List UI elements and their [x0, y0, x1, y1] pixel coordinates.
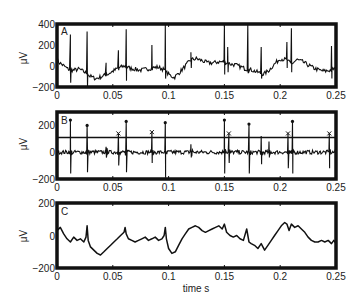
panel-a-yticks: 4002000−200: [32, 19, 55, 93]
panel-c-frame: [57, 203, 336, 268]
y-tick-label: −200: [32, 174, 55, 185]
x-tick-label: 0.05: [103, 182, 123, 193]
y-tick-label: 200: [38, 198, 55, 209]
x-tick-label: 0: [54, 271, 60, 282]
figure: A 4002000−200 00.050.10.150.20.25 μV B 2…: [0, 0, 363, 305]
panel-a-trace: [57, 24, 336, 87]
spike-dot-marker: [86, 124, 89, 127]
x-tick-label: 0.15: [215, 271, 235, 282]
spike-dot-marker: [223, 118, 226, 121]
x-tick-label: 0.25: [326, 182, 346, 193]
panel-c-yticks: 2000−200: [32, 198, 55, 274]
y-tick-label: −200: [32, 263, 55, 274]
x-tick-label: 0.1: [162, 271, 176, 282]
x-tick-label: 0.1: [162, 90, 176, 101]
x-tick-label: 0.05: [103, 271, 123, 282]
x-tick-label: 0.15: [215, 90, 235, 101]
panel-b-trace: [57, 120, 336, 178]
spike-dot-marker: [291, 120, 294, 123]
panel-a-ylabel: μV: [18, 51, 29, 64]
panel-c-ylabel: μV: [18, 229, 29, 242]
spike-dot-marker: [125, 120, 128, 123]
x-tick-label: 0: [54, 90, 60, 101]
y-tick-label: 400: [38, 19, 55, 30]
x-tick-label: 0: [54, 182, 60, 193]
panel-c: C 2000−200 00.050.10.150.20.25 μV time s: [18, 198, 346, 294]
x-tick-label: 0.2: [273, 182, 287, 193]
x-tick-label: 0.15: [215, 182, 235, 193]
panel-b: B 2000−200 00.050.10.150.20.25 μV: [18, 112, 346, 193]
y-tick-label: 0: [49, 147, 55, 158]
panel-c-trace: [57, 223, 336, 256]
spike-dot-marker: [164, 121, 167, 124]
x-tick-label: 0.25: [326, 271, 346, 282]
panel-b-xticks: 00.050.10.150.20.25: [54, 182, 346, 193]
x-tick-label: 0.1: [162, 182, 176, 193]
panel-c-label: C: [61, 206, 68, 217]
panel-b-frame: [57, 112, 336, 179]
panel-b-label: B: [61, 115, 68, 126]
y-tick-label: 200: [38, 120, 55, 131]
y-tick-label: 0: [49, 61, 55, 72]
x-tick-label: 0.2: [273, 271, 287, 282]
x-tick-label: 0.2: [273, 90, 287, 101]
panel-a: A 4002000−200 00.050.10.150.20.25 μV: [18, 19, 346, 101]
x-tick-label: 0.05: [103, 90, 123, 101]
y-tick-label: −200: [32, 82, 55, 93]
panel-b-yticks: 2000−200: [32, 120, 55, 185]
y-tick-label: 200: [38, 40, 55, 51]
x-axis-label: time s: [183, 283, 210, 294]
panel-b-ylabel: μV: [18, 137, 29, 150]
panel-c-xticks: 00.050.10.150.20.25: [54, 271, 346, 282]
panel-a-xticks: 00.050.10.150.20.25: [54, 90, 346, 101]
panel-a-label: A: [61, 26, 68, 37]
spike-dot-marker: [69, 118, 72, 121]
y-tick-label: 0: [49, 231, 55, 242]
spike-dot-marker: [247, 122, 250, 125]
x-tick-label: 0.25: [326, 90, 346, 101]
